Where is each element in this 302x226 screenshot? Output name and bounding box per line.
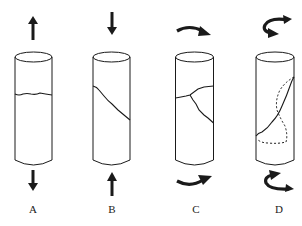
cylinder-d bbox=[256, 52, 294, 165]
panel-label-b: B bbox=[102, 203, 122, 215]
arrow-down-icon bbox=[107, 12, 117, 35]
hook-arrow-right-icon bbox=[266, 170, 294, 192]
panel-label-d: D bbox=[269, 203, 289, 215]
crack-oblique bbox=[93, 86, 130, 120]
panel-label-c: C bbox=[186, 203, 206, 215]
curved-arrow-clockwise-icon bbox=[177, 26, 211, 36]
fracture-diagram bbox=[0, 0, 302, 226]
crack-branch bbox=[190, 95, 214, 123]
panel-label-a: A bbox=[23, 203, 43, 215]
crack-transverse bbox=[15, 93, 52, 95]
curved-arrow-counter-icon bbox=[177, 175, 212, 185]
crack-helical bbox=[256, 77, 294, 136]
cylinder-a bbox=[15, 52, 52, 165]
arrow-up-icon bbox=[28, 16, 38, 40]
crack-hidden-dashed bbox=[258, 77, 294, 143]
cylinder-c bbox=[176, 52, 214, 165]
hook-arrow-left-icon bbox=[264, 15, 292, 38]
cylinder-b bbox=[93, 52, 130, 165]
arrow-up-icon bbox=[107, 172, 117, 196]
arrow-down-icon bbox=[28, 170, 38, 191]
crack-branching bbox=[176, 86, 214, 98]
